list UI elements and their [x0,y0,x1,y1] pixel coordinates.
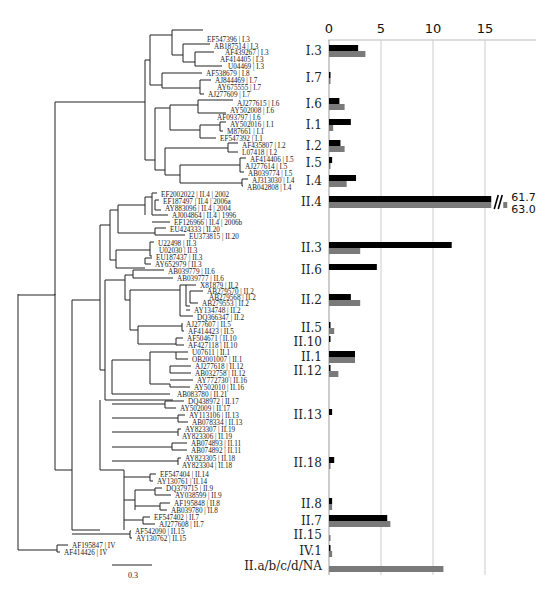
bar-black [329,322,331,328]
category-label: I.2 [306,139,322,153]
bar-gray [329,125,333,131]
category-label: I.5 [306,156,322,170]
bar-black [329,457,334,463]
bar-gray [329,371,338,377]
bar-gray [329,202,491,208]
bar-gray-tail [503,202,507,208]
chart-bars: 61.763.0 [329,45,536,572]
category-label: II.3 [301,241,322,255]
bar-black [329,294,351,300]
bar-black [329,515,387,521]
bar-black [329,498,332,504]
bar-gray [329,300,360,306]
category-label: II.5 [301,321,322,335]
category-label: II.6 [301,263,322,277]
bar-black [329,119,351,125]
bar-black [329,72,331,78]
bar-gray [329,551,332,557]
x-tick-label: 15 [477,21,494,36]
category-label: I.6 [306,97,322,111]
bar-black [329,409,332,415]
category-label: II.8 [301,497,322,511]
category-label: I.3 [306,44,322,58]
category-labels: I.3I.7I.6I.1I.2I.5I.4II.4II.3II.6II.2II.… [244,44,322,573]
category-label: II.10 [293,335,322,349]
x-tick-label: 5 [377,21,385,36]
bar-chart: 051015 61.763.0 I.3I.7I.6I.1I.2I.5I.4II.… [0,0,553,589]
bar-gray [329,328,334,334]
bar-gray [329,51,365,57]
bar-gray [329,78,331,84]
x-tick-label: 10 [425,21,442,36]
value-label: 63.0 [511,203,536,216]
category-label: II.12 [293,364,322,378]
bar-black [329,264,377,270]
bar-gray [329,566,443,572]
category-label: I.4 [306,174,323,188]
bar-black [329,45,358,51]
category-label: II.7 [301,514,322,528]
bar-black [329,98,339,104]
category-label: II.18 [293,456,322,470]
bar-gray [329,163,331,169]
category-label: II.2 [301,293,322,307]
bar-black [329,196,491,202]
category-label: II.13 [293,408,322,422]
chart-grid [328,40,536,575]
bar-gray [329,463,331,469]
bar-black [329,140,340,146]
category-label: IV.1 [299,544,322,558]
bar-gray [329,504,332,510]
bar-black [329,545,331,551]
bar-gray [329,521,390,527]
bar-black [329,365,331,371]
category-label: II.15 [293,528,322,542]
axis-break-icon [494,195,502,209]
bar-gray [329,535,331,541]
bar-gray [329,146,345,152]
category-label: I.1 [306,118,322,132]
bar-gray [329,104,345,110]
x-tick-label: 0 [325,21,333,36]
category-label: II.1 [301,350,322,364]
bar-gray [329,181,347,187]
bar-black [329,175,356,181]
category-label: I.7 [306,71,322,85]
category-label: II.4 [301,195,322,209]
bar-black [329,157,332,163]
category-label: II.a/b/c/d/NA [244,559,322,573]
bar-gray [329,248,360,254]
bar-black [329,242,452,248]
bar-black [329,351,355,357]
bar-black [329,336,331,342]
bar-gray [329,357,355,363]
x-axis-ticks: 051015 [325,21,493,36]
